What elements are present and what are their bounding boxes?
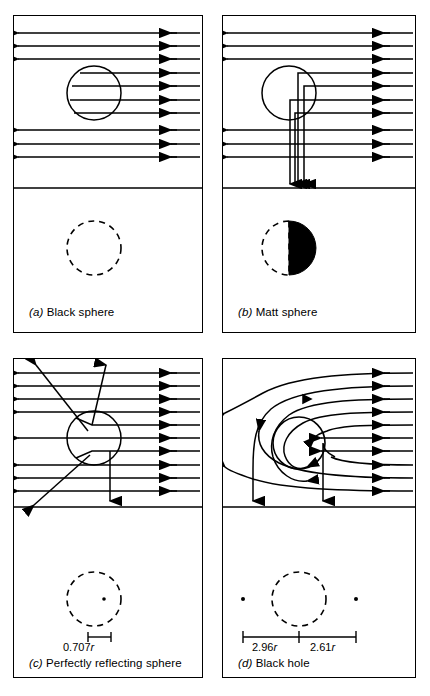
panel-c-reflecting-sphere [13,358,203,678]
panel-c-caption: (c) Perfectly reflecting sphere [29,657,182,669]
panel-b-shadow-circle [262,221,316,275]
panel-a-caption-text: Black sphere [43,306,114,318]
panel-b-caption-letter: (b) [238,306,252,318]
panel-b-sphere [262,66,316,120]
panel-b-rays [227,33,413,184]
panel-c-measure-label: 0.707r [63,641,94,653]
panel-d-measure-right-unit: r [331,641,335,653]
panel-a-shadow-circle [67,221,121,275]
panel-d-shadow-dot-right [354,597,358,601]
panel-b-matt-sphere [222,15,416,333]
panel-b-caption-text: Matt sphere [252,306,317,318]
panel-a-caption: (a) Black sphere [29,306,114,318]
panel-c-measure-unit: r [91,641,95,653]
panel-d-caption: (d) Black hole [238,657,310,669]
panel-d-measure-left-unit: r [273,641,277,653]
panel-c-drawing [14,359,202,677]
panel-d-shadow-circle [272,572,326,626]
panel-a-sphere [67,66,121,120]
panel-d-drawing [223,359,415,677]
panel-c-measure-value: 0.707 [63,641,91,653]
panel-b-shadow-dark-half [289,221,316,275]
panel-d-rays [225,373,413,501]
panel-c-shadow-centre-dot [102,597,106,601]
panel-d-arrow-arc3 [303,395,311,403]
panel-a-black-sphere [13,15,203,333]
panel-b-caption: (b) Matt sphere [238,306,317,318]
panel-c-caption-text: Perfectly reflecting sphere [43,657,182,669]
panel-c-caption-letter: (c) [29,657,43,669]
panel-d-black-hole [222,358,416,678]
panel-c-shadow-circle [67,572,121,626]
panel-d-measure-left-label: 2.96r [252,641,277,653]
panel-b-drawing [223,16,415,332]
panel-d-measure-right-label: 2.61r [310,641,335,653]
panel-d-measure-right-value: 2.61 [310,641,331,653]
panel-a-rays [18,33,200,157]
figure-root: (a) Black sphere [0,0,430,696]
panel-a-caption-letter: (a) [29,306,43,318]
panel-a-drawing [14,16,202,332]
panel-c-rays [18,365,200,505]
panel-d-caption-text: Black hole [252,657,309,669]
panel-d-caption-letter: (d) [238,657,252,669]
panel-d-shadow-dot-left [241,597,245,601]
panel-d-measure-left-value: 2.96 [252,641,273,653]
panel-b-shadow-lit-half [262,221,289,275]
